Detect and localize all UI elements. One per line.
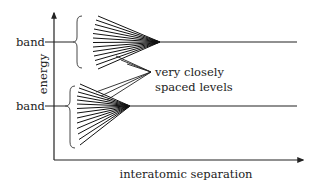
upper-band-label: band (16, 35, 46, 49)
lower-band-fan (77, 84, 130, 145)
x-axis-label: interatomic separation (120, 167, 254, 181)
upper-band-brace (73, 16, 82, 68)
diagram-canvas: energy interatomic separation band (0, 0, 317, 187)
upper-band: band (16, 16, 297, 69)
lower-band-brace (65, 86, 75, 148)
annotation-line1: very closely (154, 65, 224, 79)
annotation-line2: spaced levels (155, 80, 233, 94)
lower-band-label: band (16, 99, 46, 113)
annotation-pointers (96, 56, 151, 100)
energy-band-diagram: energy interatomic separation band (0, 0, 317, 187)
y-axis-label: energy (36, 53, 50, 94)
